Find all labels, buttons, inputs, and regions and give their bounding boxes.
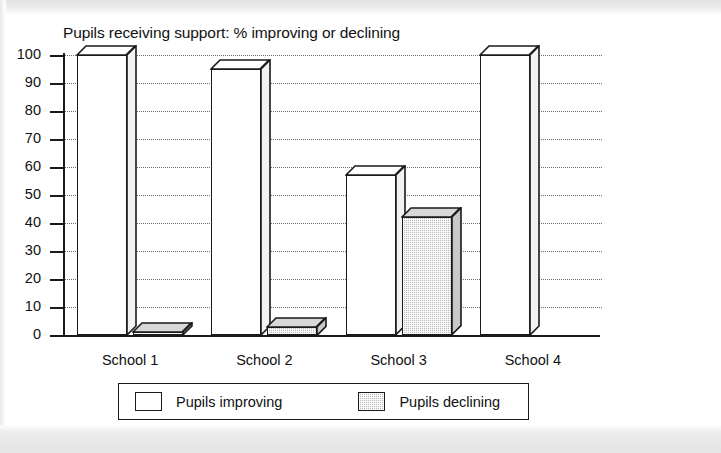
y-axis-tick-label: 100 — [1, 47, 41, 62]
legend-label-declining: Pupils declining — [399, 394, 500, 410]
bar-front-face — [211, 69, 261, 335]
bar-front-face — [267, 327, 317, 335]
y-axis-tick — [50, 55, 63, 57]
bar-improving-2 — [211, 69, 261, 335]
x-axis-label-1: School 1 — [63, 352, 197, 368]
legend-item-improving: Pupils improving — [135, 392, 282, 411]
y-axis-tick — [50, 335, 63, 337]
bar-front-face — [77, 55, 127, 335]
y-axis-tick-label: 90 — [1, 75, 41, 90]
y-axis-tick — [50, 223, 63, 225]
bar-improving-1 — [77, 55, 127, 335]
x-axis-label-2: School 2 — [197, 352, 331, 368]
bar-declining-1 — [133, 332, 183, 335]
y-axis-tick — [50, 279, 63, 281]
bar-chart-figure: Pupils receiving support: % improving or… — [0, 0, 721, 453]
x-axis-line — [63, 335, 600, 337]
bar-front-face — [402, 217, 452, 335]
chart-legend: Pupils improving Pupils declining — [118, 383, 529, 420]
y-axis-tick-label: 10 — [1, 299, 41, 314]
y-axis-tick-label: 20 — [1, 271, 41, 286]
bar-side-face — [260, 59, 272, 337]
bar-front-face — [346, 175, 396, 335]
y-axis-tick-label: 60 — [1, 159, 41, 174]
y-axis-tick — [50, 307, 63, 309]
y-axis-tick — [50, 195, 63, 197]
y-axis-tick — [50, 111, 63, 113]
bar-improving-3 — [346, 175, 396, 335]
y-axis-tick — [50, 251, 63, 253]
legend-item-declining: Pupils declining — [358, 392, 500, 411]
y-axis-tick-label: 0 — [1, 327, 41, 342]
y-axis-tick-label: 80 — [1, 103, 41, 118]
white-square-icon — [135, 392, 162, 411]
bar-improving-4 — [480, 55, 530, 335]
y-axis-tick — [50, 139, 63, 141]
bar-side-face — [451, 207, 463, 337]
y-axis-tick-label: 70 — [1, 131, 41, 146]
bar-front-face — [480, 55, 530, 335]
y-axis-tick — [50, 167, 63, 169]
bar-side-face — [126, 45, 138, 337]
y-axis-tick-label: 30 — [1, 243, 41, 258]
bar-declining-2 — [267, 327, 317, 335]
y-axis-tick-label: 50 — [1, 187, 41, 202]
legend-label-improving: Pupils improving — [176, 394, 282, 410]
bar-front-face — [133, 332, 183, 335]
grey-hatched-square-icon — [358, 392, 385, 411]
x-axis-label-4: School 4 — [466, 352, 600, 368]
y-axis-tick-label: 40 — [1, 215, 41, 230]
x-axis-label-3: School 3 — [332, 352, 466, 368]
bar-side-face — [529, 45, 541, 337]
y-axis-tick — [50, 83, 63, 85]
bar-declining-3 — [402, 217, 452, 335]
